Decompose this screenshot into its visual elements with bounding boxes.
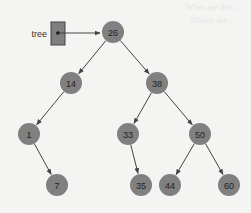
edge-33-to-35 xyxy=(131,145,138,174)
binary-search-tree-diagram: tree 261438133507354460 xyxy=(0,0,251,213)
tree-node-26: 26 xyxy=(102,21,124,43)
node-value: 38 xyxy=(152,79,162,89)
edge-38-to-50 xyxy=(164,91,192,124)
node-value: 35 xyxy=(136,181,146,191)
edge-26-to-38 xyxy=(120,40,149,74)
node-value: 44 xyxy=(165,181,175,191)
edge-1-to-7 xyxy=(34,144,51,175)
tree-node-60: 60 xyxy=(218,174,240,196)
tree-edges xyxy=(34,40,223,174)
edge-50-to-60 xyxy=(205,144,223,175)
tree-node-7: 7 xyxy=(46,174,68,196)
node-value: 50 xyxy=(195,130,205,140)
node-value: 14 xyxy=(66,79,76,89)
edge-26-to-14 xyxy=(79,40,106,73)
edge-50-to-44 xyxy=(176,143,194,174)
edge-14-to-1 xyxy=(37,91,64,124)
tree-node-38: 38 xyxy=(146,72,168,94)
node-value: 1 xyxy=(26,130,31,140)
tree-node-14: 14 xyxy=(60,72,82,94)
edge-38-to-33 xyxy=(134,93,152,124)
node-value: 26 xyxy=(108,28,118,38)
node-value: 60 xyxy=(224,181,234,191)
node-value: 33 xyxy=(123,130,133,140)
tree-node-35: 35 xyxy=(130,174,152,196)
tree-nodes: 261438133507354460 xyxy=(18,21,240,196)
tree-node-33: 33 xyxy=(117,123,139,145)
tree-node-50: 50 xyxy=(189,123,211,145)
tree-node-1: 1 xyxy=(18,123,40,145)
node-value: 7 xyxy=(54,181,59,191)
pointer-label: tree xyxy=(31,29,47,39)
tree-node-44: 44 xyxy=(159,174,181,196)
